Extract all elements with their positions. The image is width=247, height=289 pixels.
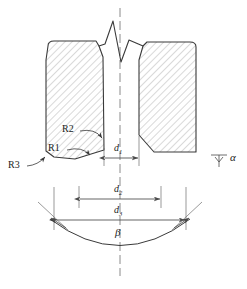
drawing-canvas [0,0,247,289]
beta-label: β [115,227,120,238]
r1-label: R1 [48,143,60,153]
d2-label: d2 [114,184,122,197]
r2-label: R2 [62,124,74,134]
alpha-label: α [230,152,236,163]
right-die-section [139,42,196,152]
break-line-zigzag [99,21,143,62]
r3-leader [27,157,45,166]
r3-label: R3 [8,160,20,170]
d3-label: d3 [114,205,122,218]
engineering-drawing: R2 R1 R3 d1 d2 d3 β α [0,0,247,289]
right-die-outline [139,42,196,152]
alpha-angle-symbol [211,155,227,167]
d1-label: d1 [114,143,122,156]
